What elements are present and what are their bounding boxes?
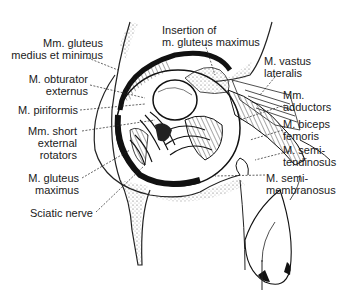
label-sciatic-nerve: Sciatic nerve	[8, 207, 93, 219]
label-biceps-femoris: M. biceps femoris	[283, 118, 330, 142]
label-short-external-rotators: Mm. short external rotators	[8, 125, 77, 161]
label-adductors: Mm. adductors	[283, 89, 331, 113]
anatomy-figure: Mm. gluteus medius et minimus M. obturat…	[0, 0, 351, 301]
label-obturator-externus: M. obturator externus	[8, 73, 88, 97]
label-vastus-lateralis: M. vastus lateralis	[264, 55, 311, 79]
label-gluteus-medius-minimus: Mm. gluteus medius et minimus	[8, 37, 103, 61]
label-semitendinosus: M. semi- tendinosus	[283, 144, 336, 168]
label-gluteus-maximus: M. gluteus maximus	[8, 172, 79, 196]
label-insertion-gluteus-maximus: Insertion of m. gluteus maximus	[162, 24, 260, 48]
label-piriformis: M. piriformis	[8, 104, 78, 116]
label-semimembranosus: M. semi- membranosus	[266, 172, 336, 196]
knee-outline	[245, 190, 291, 284]
